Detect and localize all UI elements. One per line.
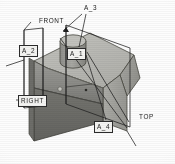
cad-viewport[interactable]: A_3 FRONT A_2 A_1 RIGHT A_4 TOP bbox=[0, 0, 175, 164]
datum-leader-left-upper bbox=[24, 22, 31, 30]
boss-top-face bbox=[60, 35, 86, 47]
model-stage: A_3 FRONT A_2 A_1 RIGHT A_4 TOP bbox=[0, 0, 175, 164]
arrowhead-front bbox=[63, 27, 69, 32]
datum-label-right[interactable]: RIGHT bbox=[18, 95, 47, 107]
datum-leader-left-lower bbox=[6, 60, 24, 66]
isometric-model-drawing bbox=[0, 0, 175, 164]
datum-point-marker bbox=[58, 87, 62, 91]
datum-label-a2[interactable]: A_2 bbox=[19, 45, 38, 57]
datum-label-a1[interactable]: A_1 bbox=[67, 48, 86, 60]
datum-label-front[interactable]: FRONT bbox=[39, 17, 64, 25]
datum-label-a4[interactable]: A_4 bbox=[94, 121, 113, 133]
datum-label-top[interactable]: TOP bbox=[139, 113, 154, 121]
datum-leader-top bbox=[127, 131, 136, 146]
datum-axis-dot bbox=[85, 89, 88, 92]
datum-label-a3[interactable]: A_3 bbox=[84, 4, 97, 12]
